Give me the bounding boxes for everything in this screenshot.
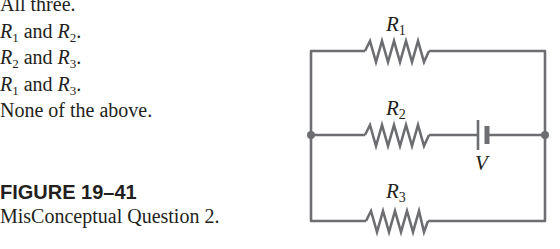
label-r1: R1: [385, 12, 406, 38]
label-r1-name: R: [385, 12, 399, 36]
label-r2-sub: 2: [399, 107, 406, 122]
label-r1-sub: 1: [399, 23, 406, 38]
resistor-r2: [365, 125, 429, 146]
resistor-r3: [366, 211, 428, 232]
label-r3-name: R: [385, 179, 399, 203]
circuit-diagram: R1 R2 R3 V: [0, 0, 560, 249]
label-r3: R3: [385, 179, 406, 205]
resistor-r1: [365, 41, 429, 62]
label-battery-v: V: [475, 151, 490, 175]
label-r2-name: R: [385, 96, 399, 120]
junction-right: [541, 131, 549, 139]
junction-left: [307, 131, 315, 139]
label-r3-sub: 3: [399, 190, 406, 205]
label-r2: R2: [385, 96, 406, 122]
